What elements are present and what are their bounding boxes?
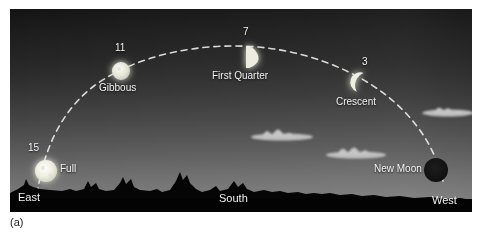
moon-day-gibbous: 11 xyxy=(115,43,125,53)
direction-east: East xyxy=(18,192,40,203)
moon-phase-first-quarter: First Quarter xyxy=(212,71,268,81)
moon-day-crescent: 3 xyxy=(362,57,368,67)
moon-crescent xyxy=(347,69,363,91)
direction-west: West xyxy=(432,195,457,206)
moon-first-quarter xyxy=(246,46,259,68)
cloud-mid-right xyxy=(326,148,386,159)
moon-phase-crescent: Crescent xyxy=(336,97,376,107)
photo-frame: 15 Full 11 Gibbous 7 First Quarter 3 Cre… xyxy=(10,9,472,212)
moon-full xyxy=(35,160,57,182)
moon-gibbous xyxy=(112,62,130,80)
moon-phase-figure: 15 Full 11 Gibbous 7 First Quarter 3 Cre… xyxy=(0,0,486,236)
cloud-layer xyxy=(251,108,472,159)
moon-phase-gibbous: Gibbous xyxy=(99,83,136,93)
moon-phase-full: Full xyxy=(60,164,76,174)
moon-phase-new-moon: New Moon xyxy=(374,164,422,174)
cloud-mid-left xyxy=(251,130,313,141)
photo-stage: 15 Full 11 Gibbous 7 First Quarter 3 Cre… xyxy=(10,9,472,212)
scene-overlay xyxy=(10,9,472,212)
moon-day-first-quarter: 7 xyxy=(243,27,249,37)
figure-caption: (a) xyxy=(10,216,23,228)
moon-new xyxy=(424,158,448,182)
direction-south: South xyxy=(219,193,248,204)
cloud-upper-right xyxy=(422,108,472,117)
moon-day-full: 15 xyxy=(28,143,39,153)
